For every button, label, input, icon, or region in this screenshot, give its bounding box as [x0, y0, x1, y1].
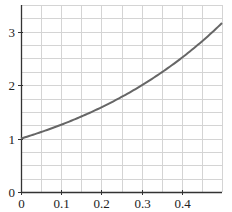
x-tick-label: 0.3 [134, 196, 150, 211]
y-axis-ticks: 0123 [9, 25, 24, 200]
y-tick-label: 3 [9, 25, 16, 40]
axes [21, 5, 222, 193]
x-tick-label: 0.4 [174, 196, 191, 211]
y-tick-label: 0 [9, 185, 16, 200]
x-tick-label: 0.2 [93, 196, 109, 211]
grid-lines [21, 5, 223, 192]
line-chart: 00.10.20.30.4 0123 [0, 0, 232, 212]
data-curve [21, 23, 222, 139]
y-tick-label: 1 [9, 132, 16, 147]
x-tick-label: 0 [18, 196, 25, 211]
y-tick-label: 2 [9, 78, 16, 93]
x-tick-label: 0.1 [53, 196, 69, 211]
